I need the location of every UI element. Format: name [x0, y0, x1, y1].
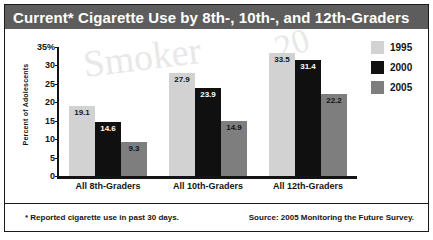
bar-value-label: 22.2	[321, 97, 347, 105]
y-axis-tick-mark	[55, 47, 59, 48]
chart-title-bar: Current* Cigarette Use by 8th-, 10th-, a…	[5, 5, 428, 29]
y-axis-tick-mark	[55, 102, 59, 103]
plot-card: Smoker 20 ) Percent of Adolescents 35%30…	[5, 29, 428, 203]
x-axis-category-label: All 12th-Graders	[257, 181, 359, 191]
bar-2000-all-8th-graders[interactable]: 14.6	[95, 122, 121, 176]
source-text: Source: 2005 Monitoring the Future Surve…	[249, 213, 414, 222]
legend-item-2005[interactable]: 2005	[371, 81, 427, 94]
bar-2000-all-10th-graders[interactable]: 23.9	[195, 88, 221, 176]
legend-swatch-icon	[371, 41, 384, 54]
y-axis-tick-label: 25	[45, 80, 55, 89]
bar-group: 19.114.69.3	[69, 47, 147, 176]
bar-2005-all-12th-graders[interactable]: 22.2	[321, 94, 347, 176]
page-title: Current* Cigarette Use by 8th-, 10th-, a…	[5, 9, 409, 26]
y-axis-tick-label: 35%	[37, 43, 55, 52]
legend-swatch-icon	[371, 81, 384, 94]
bar-value-label: 31.4	[295, 63, 321, 71]
legend-swatch-icon	[371, 61, 384, 74]
x-axis-baseline	[57, 176, 357, 179]
bar-value-label: 23.9	[195, 91, 221, 99]
y-axis-tick-mark	[55, 121, 59, 122]
y-axis-tick-mark	[55, 158, 59, 159]
y-axis-tick-mark	[55, 139, 59, 140]
bar-value-label: 14.6	[95, 125, 121, 133]
y-axis-tick-label: 30	[45, 61, 55, 70]
footer-bar: * Reported cigarette use in past 30 days…	[5, 203, 428, 231]
bar-1995-all-8th-graders[interactable]: 19.1	[69, 106, 95, 176]
bar-value-label: 33.5	[269, 56, 295, 64]
legend-label: 2005	[390, 83, 412, 93]
bar-value-label: 14.9	[221, 124, 247, 132]
x-axis-category-labels: All 8th-GradersAll 10th-GradersAll 12th-…	[59, 181, 359, 197]
y-axis-tick-labels: 35%302520151050	[27, 43, 55, 178]
bar-group: 27.923.914.9	[169, 47, 247, 176]
y-axis-tick-mark	[55, 176, 59, 177]
y-axis-tick-mark	[55, 65, 59, 66]
legend-item-1995[interactable]: 1995	[371, 41, 427, 54]
bar-group: 33.531.422.2	[269, 47, 347, 176]
legend: 199520002005	[371, 41, 427, 101]
bar-value-label: 19.1	[69, 109, 95, 117]
y-axis-tick-label: 20	[45, 98, 55, 107]
footnote-text: * Reported cigarette use in past 30 days…	[25, 213, 179, 222]
bar-value-label: 27.9	[169, 76, 195, 84]
bar-2005-all-10th-graders[interactable]: 14.9	[221, 121, 247, 176]
bar-2000-all-12th-graders[interactable]: 31.4	[295, 60, 321, 176]
bar-1995-all-10th-graders[interactable]: 27.9	[169, 73, 195, 176]
plot-area: 19.114.69.327.923.914.933.531.422.2	[59, 47, 357, 176]
y-axis-tick-mark	[55, 84, 59, 85]
y-axis-tick-label: 10	[45, 135, 55, 144]
legend-label: 2000	[390, 63, 412, 73]
legend-label: 1995	[390, 43, 412, 53]
bar-value-label: 9.3	[121, 145, 147, 153]
legend-item-2000[interactable]: 2000	[371, 61, 427, 74]
bar-2005-all-8th-graders[interactable]: 9.3	[121, 142, 147, 176]
x-axis-category-label: All 10th-Graders	[157, 181, 259, 191]
y-axis-tick-label: 15	[45, 117, 55, 126]
figure-root: Current* Cigarette Use by 8th-, 10th-, a…	[0, 0, 433, 240]
x-axis-category-label: All 8th-Graders	[57, 181, 159, 191]
bar-1995-all-12th-graders[interactable]: 33.5	[269, 53, 295, 176]
